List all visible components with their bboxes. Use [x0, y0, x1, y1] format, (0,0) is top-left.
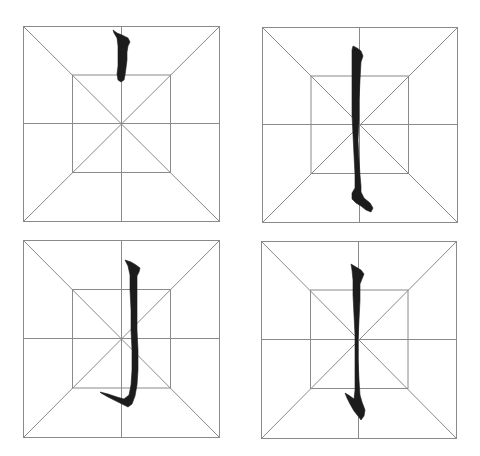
brush-stroke	[113, 30, 130, 82]
brush-stroke	[352, 46, 373, 212]
mizige-grid-top-left	[24, 27, 220, 222]
brush-stroke	[345, 264, 365, 420]
practice-sheet: upper segment of vertical stroke full ve…	[0, 0, 480, 456]
mizige-grid-top-right	[263, 28, 458, 223]
mizige-grid-bottom-left	[24, 241, 220, 438]
mizige-grid-bottom-right	[262, 242, 457, 439]
brush-stroke	[100, 260, 140, 407]
grid-canvas	[0, 0, 480, 456]
